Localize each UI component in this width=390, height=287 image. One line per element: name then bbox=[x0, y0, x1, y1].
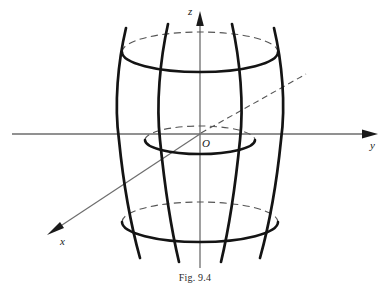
y-axis-arrowhead bbox=[362, 130, 378, 139]
figure-caption: Fig. 9.4 bbox=[0, 272, 390, 287]
x-axis-arrowhead bbox=[47, 222, 64, 235]
axis-group bbox=[12, 11, 378, 268]
origin-label: O bbox=[202, 138, 210, 149]
x-axis-negative-dashed bbox=[201, 74, 306, 133]
z-axis-label: z bbox=[188, 6, 192, 17]
z-axis-arrowhead bbox=[196, 11, 204, 26]
hyperbola-inner-left bbox=[158, 24, 179, 262]
y-axis-label: y bbox=[370, 140, 375, 151]
hyperbola-inner-right bbox=[221, 24, 242, 262]
x-axis-positive-line bbox=[56, 134, 200, 229]
hyperboloid-diagram-svg bbox=[0, 0, 390, 287]
hyperboloid-figure: z y x O Fig. 9.4 bbox=[0, 0, 390, 287]
x-axis-label: x bbox=[60, 236, 65, 247]
